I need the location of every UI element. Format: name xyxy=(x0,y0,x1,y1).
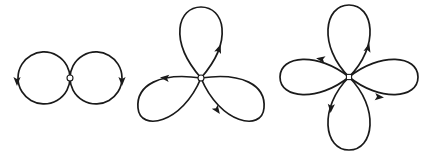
top-petal xyxy=(180,7,222,78)
lower-right-petal-arrowhead-icon xyxy=(212,105,223,117)
two-loop-figure xyxy=(13,52,125,104)
vertex-node xyxy=(346,74,351,79)
left-loop xyxy=(18,52,70,104)
vertex-node xyxy=(67,75,73,81)
lower-left-petal xyxy=(138,77,201,122)
top-petal xyxy=(328,5,370,77)
right-loop xyxy=(70,52,122,104)
top-petal-arrowhead-icon xyxy=(214,43,224,54)
four-petal-figure xyxy=(280,5,418,150)
three-petal-figure xyxy=(138,7,264,121)
lower-right-petal xyxy=(201,77,264,122)
vertex-node xyxy=(198,75,204,81)
bottom-petal xyxy=(328,77,370,150)
petal-diagram xyxy=(0,0,434,156)
